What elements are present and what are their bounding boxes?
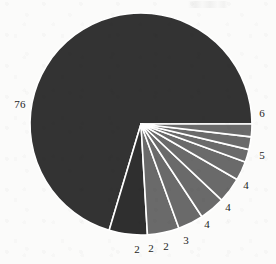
- pie-slice-label: 5: [259, 150, 265, 161]
- pie-slice-group: [30, 13, 252, 235]
- pie-chart-figure: 76654443222: [0, 0, 276, 264]
- pie-slice-label: 4: [243, 180, 249, 191]
- pie-chart-canvas: [0, 0, 276, 264]
- pie-slice-label: 2: [163, 241, 169, 252]
- pie-slice-label: 4: [225, 202, 231, 213]
- pie-slice-label: 3: [183, 235, 189, 246]
- pie-slice-label: 4: [204, 219, 210, 230]
- pie-slice-label: 2: [148, 243, 154, 254]
- pie-slice-label: 76: [14, 99, 25, 110]
- pie-slice-label: 6: [259, 108, 265, 119]
- pie-slice-label: 2: [134, 244, 140, 255]
